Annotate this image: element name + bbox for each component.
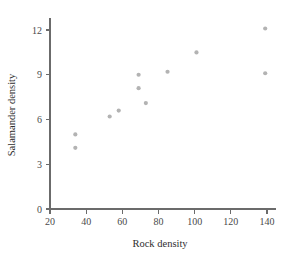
data-point bbox=[137, 86, 141, 90]
axes bbox=[50, 18, 276, 209]
x-tick-label: 120 bbox=[223, 216, 238, 227]
x-tick-label: 140 bbox=[260, 216, 275, 227]
data-point bbox=[137, 73, 141, 77]
data-point bbox=[263, 71, 267, 75]
data-points bbox=[73, 26, 267, 150]
x-tick-label: 60 bbox=[117, 216, 127, 227]
x-axis-title: Rock density bbox=[132, 238, 188, 249]
x-tick-label: 40 bbox=[81, 216, 91, 227]
plot-area: 20406080100120140036912 Rock density Sal… bbox=[0, 0, 287, 258]
y-tick-label: 9 bbox=[37, 69, 42, 80]
y-tick-label: 6 bbox=[37, 114, 42, 125]
x-tick-label: 100 bbox=[187, 216, 202, 227]
y-tick-label: 3 bbox=[37, 159, 42, 170]
x-tick-label: 80 bbox=[154, 216, 164, 227]
data-point bbox=[108, 114, 112, 118]
axis-ticks: 20406080100120140036912 bbox=[32, 25, 275, 227]
data-point bbox=[73, 146, 77, 150]
data-point bbox=[117, 108, 121, 112]
scatter-plot-figure: 20406080100120140036912 Rock density Sal… bbox=[0, 0, 287, 258]
y-tick-label: 12 bbox=[32, 25, 42, 36]
y-axis-title: Salamander density bbox=[6, 73, 17, 156]
data-point bbox=[165, 70, 169, 74]
y-tick-label: 0 bbox=[37, 204, 42, 215]
data-point bbox=[144, 101, 148, 105]
data-point bbox=[73, 132, 77, 136]
x-tick-label: 20 bbox=[45, 216, 55, 227]
data-point bbox=[194, 50, 198, 54]
data-point bbox=[263, 26, 267, 30]
